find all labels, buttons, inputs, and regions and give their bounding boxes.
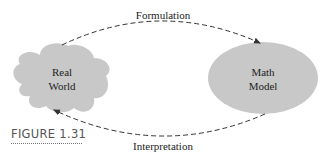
- math-model-label-line1: Math: [251, 66, 275, 78]
- math-model-label-line2: Model: [249, 80, 278, 92]
- real-world-label-line1: Real: [52, 66, 72, 78]
- formulation-arrow: [62, 21, 260, 45]
- figure-caption: FIGURE 1.31: [11, 127, 86, 141]
- caption-underline: [11, 143, 82, 144]
- math-model-ellipse: [208, 42, 318, 114]
- diagram-canvas: Formulation Interpretation Real World Ma…: [0, 0, 328, 158]
- formulation-label: Formulation: [136, 9, 191, 21]
- interpretation-label: Interpretation: [133, 140, 193, 152]
- real-world-label-line2: World: [48, 80, 76, 92]
